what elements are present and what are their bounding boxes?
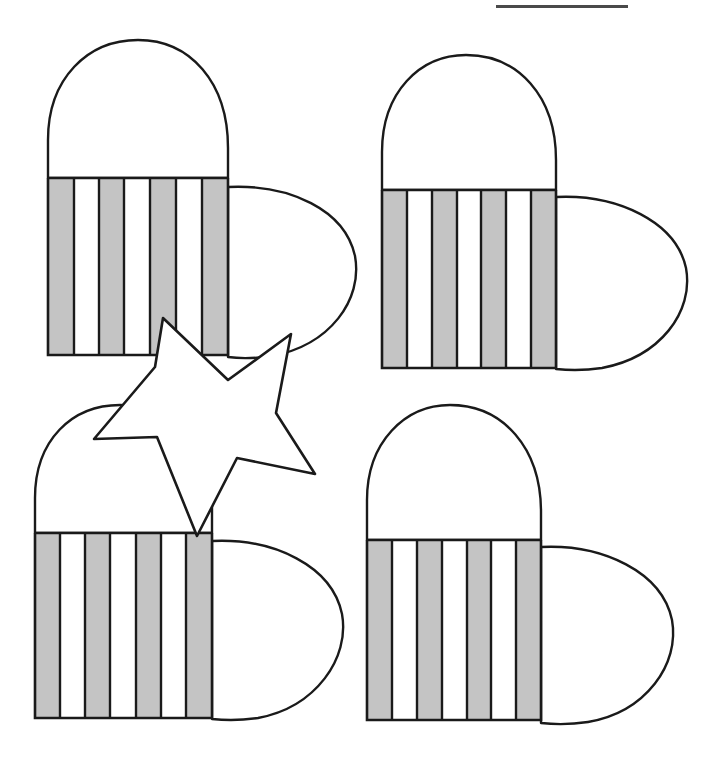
stripe-gray (417, 540, 442, 720)
stripe-gray (136, 533, 161, 718)
stripe-gray (367, 540, 392, 720)
stripe-gray (481, 190, 506, 368)
stripe-gray (186, 533, 212, 718)
stripe-gray (467, 540, 491, 720)
figure-canvas (0, 0, 724, 761)
stripe-gray (516, 540, 541, 720)
top-divider-rule (496, 5, 628, 8)
stripe-gray (202, 178, 228, 355)
stripe-gray (35, 533, 60, 718)
stripe-gray (382, 190, 407, 368)
stripe-gray (99, 178, 124, 355)
stripe-gray (85, 533, 110, 718)
stripe-gray (48, 178, 74, 355)
stripe-gray (432, 190, 457, 368)
stripe-gray (531, 190, 556, 368)
shapes-figure (0, 0, 724, 761)
